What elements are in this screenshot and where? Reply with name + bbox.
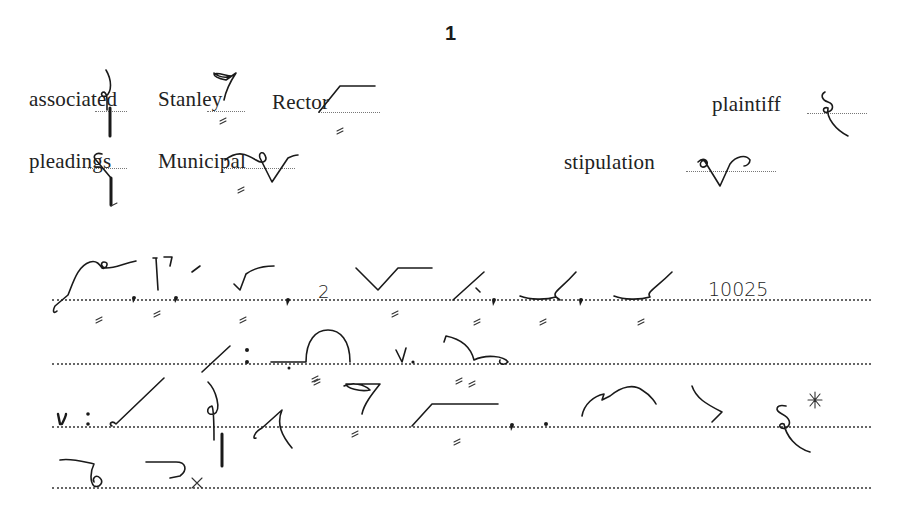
stipulation-outline-icon	[698, 157, 750, 186]
stanley-outline-icon	[214, 73, 236, 124]
associated-outline-icon	[102, 70, 111, 136]
pleadings-outline-icon	[94, 153, 117, 206]
rector-outline-icon	[319, 86, 375, 134]
line4-outlines	[60, 459, 202, 488]
line1-outlines	[54, 257, 672, 325]
plaintiff-outline-icon	[822, 92, 848, 136]
municipal-outline-icon	[225, 153, 298, 193]
line3-outlines	[58, 378, 822, 466]
asterisk-icon	[808, 392, 822, 408]
shorthand-outlines	[0, 0, 912, 520]
